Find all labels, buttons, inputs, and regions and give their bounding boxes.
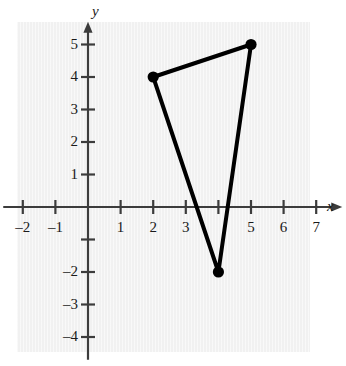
vertex-point-marker bbox=[245, 39, 256, 50]
data-series-group bbox=[148, 39, 257, 278]
x-tick-label: –1 bbox=[35, 220, 75, 235]
y-tick-label: 2 bbox=[42, 134, 78, 149]
triangle-outline bbox=[153, 45, 251, 273]
y-tick-label: –4 bbox=[42, 329, 78, 344]
y-axis-arrow-icon bbox=[83, 22, 92, 33]
y-tick-label: –3 bbox=[42, 297, 78, 312]
x-tick-label: 7 bbox=[296, 220, 336, 235]
tick-marks-group bbox=[23, 45, 316, 338]
y-tick-label: 1 bbox=[42, 167, 78, 182]
coordinate-plane-figure: –2–112356754321–2–3–4 x y bbox=[0, 0, 346, 366]
y-tick-label: 5 bbox=[42, 37, 78, 52]
x-tick-label: 3 bbox=[166, 220, 206, 235]
vertex-point-marker bbox=[148, 71, 159, 82]
y-tick-label: –2 bbox=[42, 264, 78, 279]
y-axis-label: y bbox=[92, 4, 99, 19]
vertex-point-marker bbox=[213, 266, 224, 277]
y-tick-label: 3 bbox=[42, 102, 78, 117]
y-tick-label: 4 bbox=[42, 69, 78, 84]
x-axis-label: x bbox=[327, 199, 334, 214]
